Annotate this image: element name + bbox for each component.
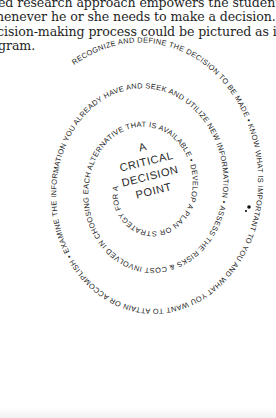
center-line-a: A (137, 140, 148, 154)
decision-spiral-diagram: RECOGNIZE AND DEFINE THE DECISION TO BE … (0, 0, 276, 418)
dot-marker-small (245, 210, 247, 212)
document-page: ed research approach empowers the studen… (0, 0, 276, 418)
dot-marker (247, 205, 251, 209)
center-label: A CRITICAL DECISION POINT (113, 134, 183, 203)
page-bottom-edge (0, 408, 276, 418)
